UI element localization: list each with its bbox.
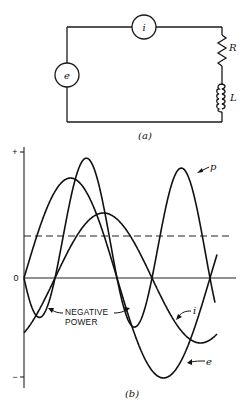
graph-caption: (b) <box>125 388 139 399</box>
circuit-diagram: e i R L (a) <box>55 15 237 141</box>
negative-power-left-leader <box>52 310 63 313</box>
e-label: e <box>206 356 212 367</box>
negative-power-label-line2: POWER <box>65 317 98 327</box>
resistor-symbol <box>218 35 226 66</box>
y-plus-label: + <box>12 147 17 157</box>
power-curve-p <box>24 158 215 327</box>
i-label-leader <box>179 311 191 316</box>
p-label: p <box>210 161 217 172</box>
inductor-symbol <box>217 84 225 112</box>
i-label: i <box>193 305 196 316</box>
waveform-graph: + 0 − p i e NEGATIVE POWER (b) <box>12 147 236 399</box>
negative-power-label-line1: NEGATIVE <box>65 307 109 317</box>
y-minus-label: − <box>12 372 17 382</box>
voltage-source-label: e <box>64 70 70 81</box>
e-label-leader <box>191 361 205 362</box>
circuit-caption: (a) <box>138 130 152 141</box>
e-arrowhead <box>187 359 192 365</box>
i-arrowhead <box>176 314 182 320</box>
resistor-label: R <box>228 42 237 53</box>
y-zero-label: 0 <box>13 273 18 283</box>
inductor-label: L <box>229 92 237 103</box>
rl-circuit-figure: e i R L (a) + 0 − p i e NEGATIVE <box>0 0 247 402</box>
p-arrowhead <box>197 168 203 173</box>
ammeter-label: i <box>142 22 145 33</box>
